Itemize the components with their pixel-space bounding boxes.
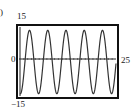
- chart-plot: [0, 0, 136, 107]
- data-line: [20, 30, 116, 93]
